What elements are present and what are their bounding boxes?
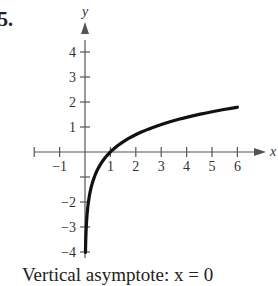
- x-tick-label: 3: [158, 159, 165, 174]
- y-tick-label: 2: [69, 95, 76, 110]
- y-tick-label: −4: [61, 245, 76, 260]
- y-tick-label: −3: [61, 220, 76, 235]
- y-axis-label: y: [80, 4, 89, 19]
- x-tick-label: 2: [132, 159, 139, 174]
- x-axis-label: x: [269, 144, 277, 159]
- x-tick-label: 4: [183, 159, 190, 174]
- y-tick-label: 4: [69, 45, 76, 60]
- y-tick-label: −2: [61, 195, 76, 210]
- asymptote-caption: Vertical asymptote: x = 0: [22, 264, 213, 286]
- y-tick-label: 1: [69, 120, 76, 135]
- y-axis-arrow-icon: [81, 22, 89, 34]
- x-tick-label: 6: [234, 159, 241, 174]
- x-tick-label: −1: [52, 159, 67, 174]
- x-tick-label: 5: [209, 159, 216, 174]
- x-tick-label: 1: [107, 159, 114, 174]
- y-tick-label: 3: [69, 70, 76, 85]
- log-curve: [85, 107, 237, 252]
- x-axis-arrow-icon: [254, 148, 266, 156]
